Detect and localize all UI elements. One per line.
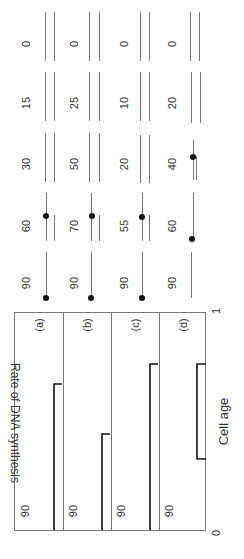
- x-axis-label: Cell age: [216, 377, 231, 467]
- step-traces: [0, 0, 244, 559]
- x-tick-1: 1: [210, 303, 222, 319]
- y-axis-label: Rate of DNA synthesis: [8, 348, 22, 498]
- x-tick-0: 0: [210, 525, 222, 541]
